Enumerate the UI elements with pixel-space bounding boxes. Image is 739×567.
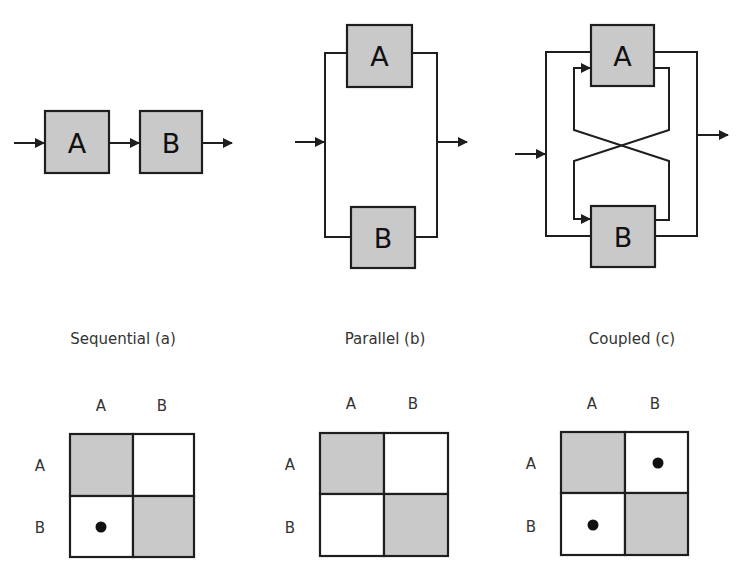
block-b-label: B bbox=[614, 222, 633, 253]
dsm-matrix-sequential: A B A B bbox=[35, 397, 194, 557]
block-b-label: B bbox=[162, 128, 181, 159]
dsm-matrix-parallel: A B A B bbox=[285, 395, 448, 556]
cell-a-b bbox=[384, 433, 448, 494]
row-label-a: A bbox=[285, 456, 296, 474]
dependency-dot bbox=[588, 520, 599, 531]
split-wire bbox=[546, 52, 591, 236]
row-label-b: B bbox=[526, 518, 536, 536]
coupled-flow-diagram: A B bbox=[515, 25, 728, 267]
dependency-dot bbox=[653, 458, 664, 469]
row-label-a: A bbox=[526, 455, 537, 473]
col-label-a: A bbox=[346, 395, 357, 413]
cell-a-a bbox=[320, 433, 384, 494]
block-a-label: A bbox=[370, 41, 389, 72]
feedback-b-to-a bbox=[574, 68, 669, 220]
block-b-label: B bbox=[374, 223, 393, 254]
col-label-a: A bbox=[96, 397, 107, 415]
row-label-b: B bbox=[35, 519, 45, 537]
block-a-label: A bbox=[68, 128, 87, 159]
caption-parallel: Parallel (b) bbox=[345, 330, 426, 348]
row-label-a: A bbox=[35, 457, 46, 475]
block-a-label: A bbox=[613, 41, 632, 72]
caption-coupled: Coupled (c) bbox=[589, 330, 675, 348]
row-label-b: B bbox=[285, 519, 295, 537]
col-label-b: B bbox=[408, 395, 418, 413]
col-label-b: B bbox=[157, 397, 167, 415]
merge-wire bbox=[654, 52, 697, 236]
sequential-flow-diagram: A B bbox=[14, 111, 232, 173]
cell-a-a bbox=[561, 432, 625, 493]
cell-b-b bbox=[133, 496, 194, 557]
cell-b-a bbox=[320, 494, 384, 556]
feedback-a-to-b bbox=[574, 68, 669, 219]
cell-b-b bbox=[384, 494, 448, 556]
caption-sequential: Sequential (a) bbox=[70, 330, 176, 348]
dependency-dot bbox=[96, 522, 107, 533]
parallel-flow-diagram: A B bbox=[295, 25, 467, 268]
col-label-b: B bbox=[650, 395, 660, 413]
cell-b-b bbox=[625, 493, 688, 555]
task-structure-diagram: A B Sequential (a) A B Parallel (b) A B … bbox=[0, 0, 739, 567]
cell-a-b bbox=[133, 434, 194, 496]
cell-a-a bbox=[70, 434, 133, 496]
dsm-matrix-coupled: A B A B bbox=[526, 395, 688, 555]
col-label-a: A bbox=[587, 395, 598, 413]
